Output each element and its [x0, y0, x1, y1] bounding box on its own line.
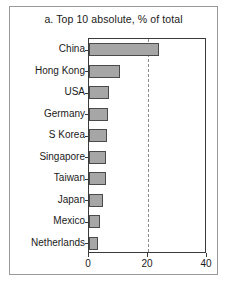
category-label-china: China [0, 38, 85, 60]
bar-row [89, 190, 103, 212]
bar-row [89, 82, 109, 104]
category-label-japan: Japan [0, 189, 85, 211]
bar [89, 237, 98, 250]
bar [89, 172, 106, 185]
x-tick-40 [206, 253, 207, 257]
x-tick-label-0: 0 [85, 258, 91, 269]
y-tick [85, 243, 89, 244]
category-label-usa: USA [0, 81, 85, 103]
bar-row [89, 233, 98, 255]
bar [89, 129, 107, 142]
bar-row [89, 211, 100, 233]
plot-area [88, 38, 206, 253]
chart-title: a. Top 10 absolute, % of total [9, 13, 218, 25]
y-tick [85, 50, 89, 51]
bar [89, 108, 108, 121]
y-tick [85, 93, 89, 94]
y-tick [85, 114, 89, 115]
bar [89, 43, 159, 56]
y-tick [85, 222, 89, 223]
x-axis: 02040 [88, 253, 206, 273]
category-label-singapore: Singapore [0, 146, 85, 168]
x-tick-label-40: 40 [200, 258, 211, 269]
category-label-s-korea: S Korea [0, 124, 85, 146]
x-tick-label-20: 20 [141, 258, 152, 269]
y-tick [85, 157, 89, 158]
gridline-20 [148, 39, 149, 252]
plot-inner [89, 39, 205, 252]
bar [89, 65, 120, 78]
category-label-netherlands: Netherlands [0, 232, 85, 254]
bar [89, 151, 106, 164]
bar-row [89, 147, 106, 169]
bar-row [89, 168, 106, 190]
bar [89, 86, 109, 99]
category-label-hong-kong: Hong Kong [0, 60, 85, 82]
bar [89, 194, 103, 207]
y-tick [85, 71, 89, 72]
category-label-taiwan: Taiwan [0, 167, 85, 189]
x-tick-0 [88, 253, 89, 257]
bar-row [89, 125, 107, 147]
y-tick [85, 179, 89, 180]
category-label-germany: Germany [0, 103, 85, 125]
bar-row [89, 39, 159, 61]
bar [89, 215, 100, 228]
bar-row [89, 61, 120, 83]
y-tick [85, 136, 89, 137]
bar-row [89, 104, 108, 126]
y-tick [85, 200, 89, 201]
category-label-mexico: Mexico [0, 210, 85, 232]
chart-figure: a. Top 10 absolute, % of total 02040 Chi… [0, 0, 228, 284]
x-tick-20 [147, 253, 148, 257]
